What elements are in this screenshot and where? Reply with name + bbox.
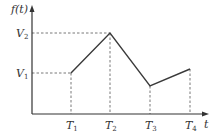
dashed-guides: [32, 33, 190, 114]
y-tick-v1: V1: [16, 67, 28, 81]
axes: [32, 10, 205, 114]
piecewise-linear-graph: f(t) t V2 V1 T1 T2 T3 T4: [0, 0, 221, 140]
x-tick-t2: T2: [105, 119, 117, 133]
y-axis-label: f(t): [10, 3, 28, 16]
x-axis-label: t: [204, 118, 209, 131]
x-tick-t1: T1: [66, 119, 78, 133]
x-tick-t4: T4: [185, 119, 197, 133]
x-tick-t3: T3: [145, 119, 157, 133]
y-axis-arrow-icon: [30, 5, 35, 12]
function-line: [71, 33, 190, 86]
y-tick-v2: V2: [16, 27, 28, 41]
x-axis-arrow-icon: [202, 112, 209, 117]
